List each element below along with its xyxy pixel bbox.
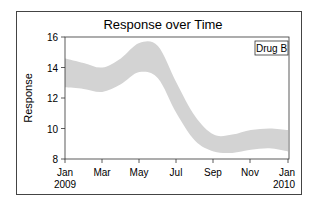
- legend-label: Drug B: [256, 43, 287, 54]
- x-tick-year: 2009: [54, 179, 77, 190]
- y-axis: [61, 37, 65, 159]
- x-tick-label: Sep: [204, 167, 222, 178]
- x-tick-label: Nov: [241, 167, 259, 178]
- x-tick-year: 2010: [273, 179, 296, 190]
- x-tick-label: Mar: [93, 167, 111, 178]
- drug-b-band: [65, 41, 288, 153]
- x-tick-label: Jan: [279, 167, 295, 178]
- y-tick-label: 8: [52, 154, 58, 165]
- legend: Drug B: [255, 41, 288, 55]
- x-tick-label: Jan: [57, 167, 73, 178]
- y-tick-label: 16: [47, 32, 59, 43]
- y-axis-label: Response: [22, 73, 34, 123]
- chart-svg: Response over Time 16 14 12 10 8 Respons…: [0, 0, 314, 208]
- x-tick-label: Jul: [170, 167, 183, 178]
- chart-title: Response over Time: [103, 17, 222, 32]
- y-tick-label: 10: [47, 124, 59, 135]
- x-axis: [65, 159, 288, 163]
- x-tick-label: May: [130, 167, 149, 178]
- y-tick-label: 12: [47, 93, 59, 104]
- y-tick-label: 14: [47, 63, 59, 74]
